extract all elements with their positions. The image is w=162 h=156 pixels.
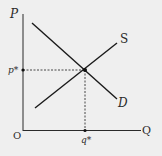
equilibrium-point: [83, 68, 87, 72]
y-axis-label: P: [9, 7, 19, 21]
supply-curve: [35, 43, 117, 108]
quantity-label: q*: [81, 135, 92, 145]
price-label: p*: [8, 65, 19, 75]
x-axis-label: Q: [142, 124, 151, 137]
quantity-axis-point: [83, 129, 86, 132]
supply-label: S: [120, 32, 128, 46]
supply-demand-diagram: P Q O p* q* S D: [0, 0, 162, 156]
demand-label: D: [117, 96, 128, 110]
origin-label: O: [13, 130, 21, 141]
demand-curve: [32, 23, 117, 99]
price-axis-point: [21, 68, 24, 71]
